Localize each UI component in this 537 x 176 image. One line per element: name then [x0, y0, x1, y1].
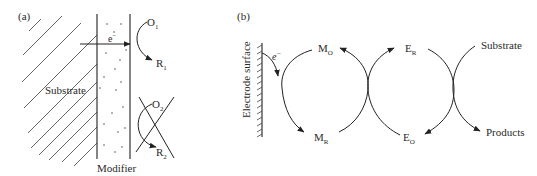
enzyme-oxidation-arc	[425, 49, 454, 134]
r2-label: R2	[156, 146, 167, 161]
electron-label-a: e−	[108, 32, 116, 44]
modifier-label: Modifier	[97, 162, 136, 174]
er-label: ER	[405, 42, 417, 57]
panel-a-label: (a)	[18, 10, 31, 23]
modifier-dots	[99, 23, 127, 153]
mr-label: MR	[314, 131, 329, 146]
diagram-canvas: (a) Substrate	[0, 0, 537, 176]
mediator-oxidation-arc	[339, 48, 368, 132]
eo-label: EO	[403, 131, 415, 146]
o1-label: O1	[147, 16, 159, 31]
panel-a: (a) Substrate	[18, 10, 174, 174]
mediator-reduction-arc	[282, 50, 312, 132]
o2-label: O2	[152, 98, 164, 113]
substrate-label: Substrate	[45, 84, 86, 96]
products-label: Products	[486, 126, 525, 138]
mo-label: MO	[318, 42, 333, 57]
electrode-hatching	[257, 45, 262, 137]
panel-b: (b) Electrode surface e− MO MR ER EO Sub…	[237, 10, 525, 146]
electron-label-b: e−	[272, 50, 281, 62]
enzyme-reduction-arc	[368, 48, 400, 135]
electrode-surface-label: Electrode surface	[240, 41, 252, 118]
substrate-to-products-arc	[453, 46, 480, 131]
panel-b-label: (b)	[237, 10, 250, 23]
substrate-label-b: Substrate	[481, 39, 522, 51]
r1-label: R1	[156, 57, 167, 72]
